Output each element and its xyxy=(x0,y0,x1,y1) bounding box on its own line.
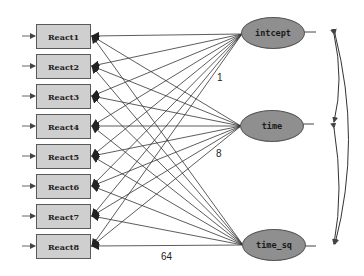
factor-stubs xyxy=(302,32,316,246)
covariance-curves xyxy=(334,34,349,244)
observed-react5[interactable]: React5 xyxy=(36,144,91,169)
path-label-64: 64 xyxy=(161,251,172,262)
observed-react3[interactable]: React3 xyxy=(36,84,91,109)
observed-react8[interactable]: React8 xyxy=(36,234,91,259)
path-label-1: 1 xyxy=(217,72,223,83)
latent-time[interactable]: time xyxy=(240,110,304,142)
observed-react2[interactable]: React2 xyxy=(36,54,91,79)
path-label-8: 8 xyxy=(216,148,222,159)
observed-react7[interactable]: React7 xyxy=(36,204,91,229)
loading-paths xyxy=(92,34,243,246)
latent-time-sq[interactable]: time_sq xyxy=(242,229,306,261)
observed-react1[interactable]: React1 xyxy=(36,24,91,49)
latent-intcept[interactable]: intcept xyxy=(241,17,305,49)
observed-react6[interactable]: React6 xyxy=(36,174,91,199)
error-arrows xyxy=(22,36,35,246)
path-diagram: React1 React2 React3 React4 React5 React… xyxy=(0,0,364,276)
observed-react4[interactable]: React4 xyxy=(36,114,91,139)
